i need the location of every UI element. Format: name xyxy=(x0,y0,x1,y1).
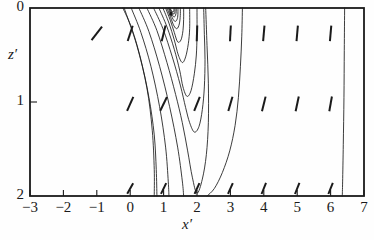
figure-panel: −3−2−101234567 012 x′ z′ xyxy=(0,0,374,240)
y-axis-title: z′ xyxy=(8,46,17,63)
velocity-vector-stick xyxy=(330,26,331,42)
velocity-vector-stick xyxy=(128,26,133,41)
velocity-vector-stick xyxy=(297,26,298,42)
x-axis-tick-label: 0 xyxy=(116,200,144,215)
velocity-vector-stick xyxy=(197,26,198,42)
y-axis-title-prime: ′ xyxy=(14,46,17,62)
axis-ticks-group xyxy=(30,102,364,196)
x-axis-tick-label: −3 xyxy=(16,200,44,215)
y-axis-tick-label: 2 xyxy=(4,187,24,202)
x-axis-tick-label: 7 xyxy=(350,200,374,215)
velocity-vector-stick xyxy=(194,97,200,111)
contour-lines-group xyxy=(123,8,345,196)
contour-line xyxy=(207,8,242,196)
contour-line xyxy=(163,8,190,63)
contour-line xyxy=(139,8,184,196)
x-axis-tick-label: 2 xyxy=(183,200,211,215)
x-axis-title-prime: ′ xyxy=(189,216,192,232)
x-axis-tick-label: 6 xyxy=(317,200,345,215)
velocity-vector-stick xyxy=(92,27,102,40)
contour-focus-point xyxy=(169,11,172,15)
x-axis-title: x′ xyxy=(0,216,374,233)
y-axis-tick-label: 0 xyxy=(4,0,24,14)
velocity-vector-sticks-group xyxy=(92,26,333,194)
velocity-vector-stick xyxy=(263,26,264,42)
y-axis-tick-label: 1 xyxy=(4,93,24,108)
velocity-vector-stick xyxy=(296,97,299,112)
velocity-vector-stick xyxy=(160,97,167,111)
x-axis-tick-label: −1 xyxy=(83,200,111,215)
x-axis-tick-label: −2 xyxy=(49,200,77,215)
velocity-vector-stick xyxy=(262,97,266,112)
x-axis-tick-label: 4 xyxy=(250,200,278,215)
velocity-vector-stick xyxy=(228,97,232,111)
x-axis-tick-label: 1 xyxy=(150,200,178,215)
contour-line xyxy=(159,8,197,96)
x-axis-tick-label: 3 xyxy=(216,200,244,215)
contour-line xyxy=(342,8,344,196)
velocity-vector-stick xyxy=(230,26,231,42)
contour-line xyxy=(123,8,157,196)
velocity-vector-stick xyxy=(127,97,133,111)
x-axis-tick-label: 5 xyxy=(283,200,311,215)
velocity-vector-stick xyxy=(329,97,332,112)
x-axis-title-symbol: x xyxy=(182,216,189,232)
